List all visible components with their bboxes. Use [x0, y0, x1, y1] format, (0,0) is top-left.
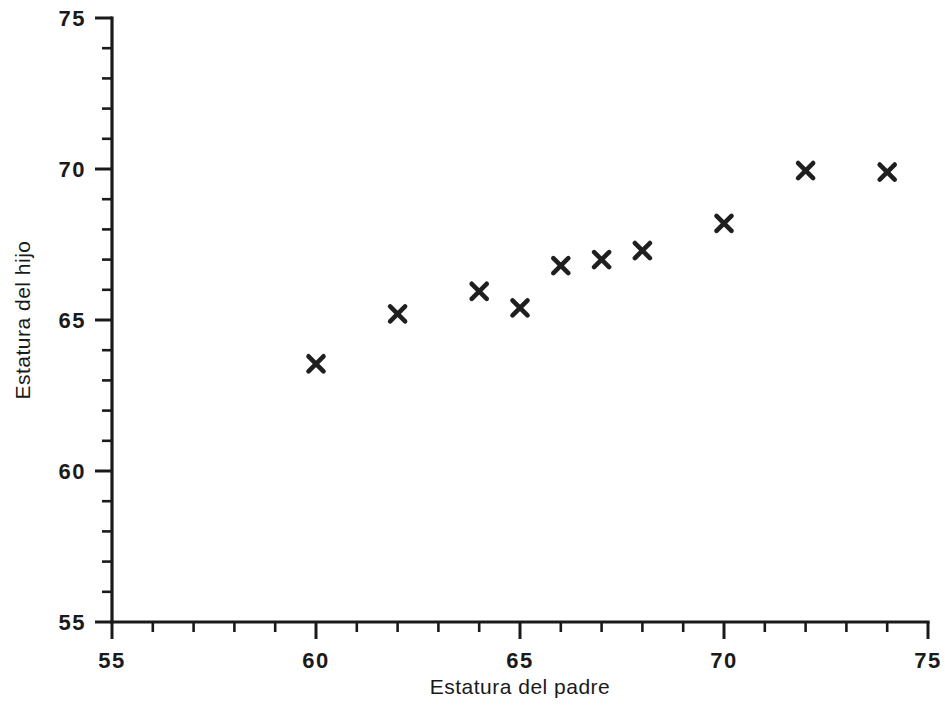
scatter-plot-figure: 55606570755560657075 Estatura del padreE…	[0, 0, 945, 705]
x-axis-tick-label-60: 60	[302, 648, 329, 673]
plot-background	[0, 0, 945, 705]
y-axis-tick-label-70: 70	[59, 157, 86, 182]
x-axis-tick-label-65: 65	[506, 648, 533, 673]
y-axis-tick-label-65: 65	[59, 308, 86, 333]
x-axis-tick-label-70: 70	[710, 648, 737, 673]
y-axis-tick-label-55: 55	[59, 610, 86, 635]
y-axis-tick-label-75: 75	[59, 6, 86, 31]
y-axis-title: Estatura del hijo	[11, 240, 34, 399]
plot-canvas: 55606570755560657075 Estatura del padreE…	[0, 0, 945, 705]
x-axis-tick-label-55: 55	[98, 648, 125, 673]
y-axis-tick-label-60: 60	[59, 459, 86, 484]
x-axis-title: Estatura del padre	[430, 675, 611, 698]
x-axis-tick-label-75: 75	[914, 648, 941, 673]
